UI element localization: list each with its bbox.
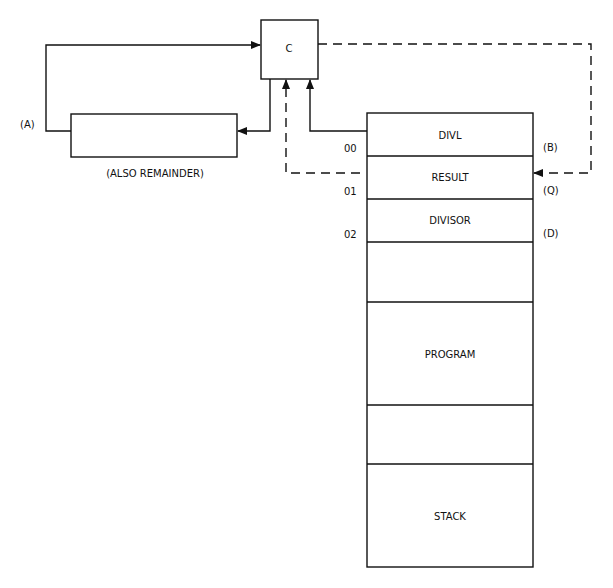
accumulator-caption: (ALSO REMAINDER) <box>106 168 204 179</box>
memory-cell-program: PROGRAM <box>425 349 476 360</box>
result-to-controller-dashed-arrow <box>286 80 360 173</box>
register-q: (Q) <box>543 185 559 196</box>
memory-cell-result: RESULT <box>431 172 469 183</box>
register-d: (D) <box>543 228 559 239</box>
memory-cell-divisor: DIVISOR <box>429 215 471 226</box>
controller-to-accumulator-arrow <box>238 79 270 131</box>
accumulator-label: (A) <box>20 119 35 130</box>
accumulator-box <box>71 114 237 157</box>
address-01: 01 <box>344 186 357 197</box>
address-00: 00 <box>344 143 357 154</box>
dividend-to-controller-arrow <box>310 80 367 131</box>
register-b: (B) <box>543 142 558 153</box>
memory-cell-divl: DIVL <box>438 130 461 141</box>
memory-cell-stack: STACK <box>434 511 466 522</box>
controller-label: C <box>286 43 293 54</box>
division-flow-diagram: C (A) (ALSO REMAINDER) DIVL RESULT DIVIS… <box>0 0 613 588</box>
address-02: 02 <box>344 229 357 240</box>
